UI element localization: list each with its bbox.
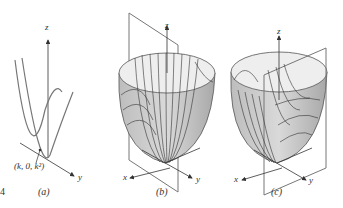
side-mark: 4 [0, 186, 5, 197]
axis-label-y-a: y [78, 172, 82, 182]
axis-label-z-b: z [165, 20, 169, 30]
axis-label-y-c: y [309, 175, 313, 185]
panel-c [231, 36, 327, 195]
axis-label-x-b: x [123, 172, 127, 182]
axis-label-y-b: y [196, 174, 200, 184]
panel-a [15, 40, 74, 176]
caption-c: (c) [271, 186, 282, 197]
caption-b: (b) [156, 186, 168, 197]
x-axis-c [242, 168, 282, 180]
figure-canvas [0, 0, 343, 208]
axis-label-z-c: z [277, 26, 281, 36]
parabola-1-icon [15, 60, 62, 136]
point-label-a: (k, 0, k²) [14, 161, 44, 171]
axis-label-x-c: x [234, 174, 238, 184]
caption-a: (a) [38, 186, 50, 197]
point-marker-icon [39, 149, 42, 152]
parabola-2-icon [22, 58, 73, 158]
panel-b [119, 13, 215, 192]
y-axis-a [20, 143, 74, 176]
x-axis-b [130, 168, 170, 178]
axis-label-z-a: z [45, 22, 49, 32]
